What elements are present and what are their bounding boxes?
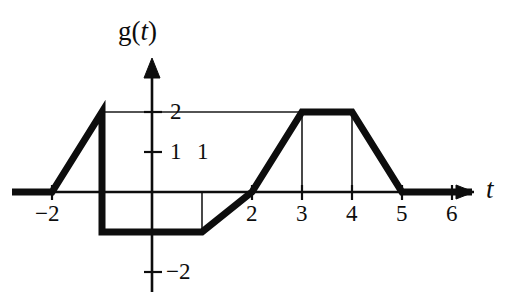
- x-tick-label--2: −2: [35, 202, 59, 225]
- axes: [22, 58, 474, 292]
- x-tick-label-1: 1: [197, 140, 209, 163]
- x-tick-label-2: 2: [246, 202, 258, 225]
- x-axis-label: t: [486, 176, 494, 203]
- y-axis-label-suffix: ): [148, 16, 157, 46]
- x-tick-label-3: 3: [296, 202, 308, 225]
- y-axis-label-variable: t: [141, 16, 149, 46]
- graph-canvas: [0, 0, 515, 303]
- y-axis-label-prefix: g(: [118, 16, 141, 46]
- y-tick-label-1: 1: [170, 140, 182, 163]
- function-graph-figure: g(t) t −2 1 2 3 4 5 6 2 1 −2: [0, 0, 515, 303]
- x-tick-label-5: 5: [396, 202, 408, 225]
- y-axis-label: g(t): [118, 18, 157, 45]
- y-axis-arrowhead: [144, 58, 160, 78]
- y-tick-label-2: 2: [170, 100, 182, 123]
- x-tick-label-6: 6: [446, 202, 458, 225]
- x-tick-label-4: 4: [346, 202, 358, 225]
- y-tick-label--2: −2: [166, 260, 190, 283]
